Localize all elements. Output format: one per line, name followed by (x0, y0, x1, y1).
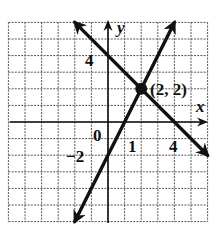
tick-label-y-neg-2: −2 (66, 147, 84, 166)
tick-label-y-4: 4 (85, 51, 94, 70)
y-axis-label: y (115, 18, 125, 37)
tick-label-origin: 0 (93, 126, 102, 145)
intersection-label: (2, 2) (150, 80, 187, 99)
coordinate-graph: x y (2, 2) 4 0 −2 1 4 (0, 0, 224, 229)
x-axis-label: x (195, 97, 205, 116)
intersection-point (135, 83, 147, 95)
tick-label-x-4: 4 (169, 137, 178, 156)
tick-label-x-1: 1 (128, 137, 137, 156)
